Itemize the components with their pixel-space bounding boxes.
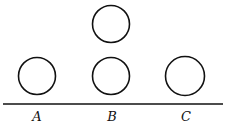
label-a: A	[32, 110, 41, 123]
circle-b-bottom	[93, 58, 130, 95]
diagram-canvas	[0, 0, 226, 125]
label-c: C	[181, 110, 191, 123]
label-b: B	[107, 110, 117, 123]
circle-a	[19, 58, 56, 95]
circle-b-top	[93, 6, 130, 43]
circle-c	[166, 57, 205, 96]
